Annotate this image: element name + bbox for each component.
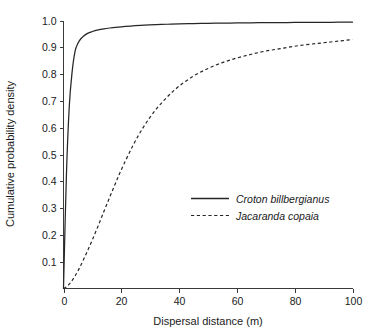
y-tick-label: 0.3 [42,202,57,214]
series-line-croton-billbergianus [64,22,353,288]
y-tick-label: 0.9 [42,41,57,53]
y-tick-label: 0.5 [42,149,57,161]
x-axis-tick-labels: 020406080100 [62,295,363,307]
y-tick-label: 0.6 [42,122,57,134]
y-axis-tick-labels: 0.10.20.30.40.50.60.70.80.91.0 [42,15,57,268]
y-tick-label: 0.2 [42,229,57,241]
legend-label-jacaranda-copaia: Jacaranda copaia [235,210,319,222]
legend-label-croton-billbergianus: Croton billbergianus [236,193,330,205]
y-tick-label: 0.1 [42,256,57,268]
y-tick-label: 0.8 [42,68,57,80]
y-tick-label: 1.0 [42,15,57,27]
x-tick-label: 0 [62,295,68,307]
cumulative-dispersal-chart: 0.10.20.30.40.50.60.70.80.91.0 020406080… [0,0,373,336]
chart-legend: Croton billbergianus Jacaranda copaia [191,193,330,222]
series-line-jacaranda-copaia [64,40,353,289]
x-tick-label: 100 [345,295,363,307]
y-axis-title: Cumulative probability density [4,80,16,227]
x-tick-label: 80 [290,295,302,307]
chart-figure: 0.10.20.30.40.50.60.70.80.91.0 020406080… [0,0,373,336]
x-tick-label: 40 [174,295,186,307]
x-tick-label: 60 [232,295,244,307]
y-tick-label: 0.4 [42,175,57,187]
x-tick-label: 20 [116,295,128,307]
y-tick-label: 0.7 [42,95,57,107]
x-axis-title: Dispersal distance (m) [153,315,262,327]
